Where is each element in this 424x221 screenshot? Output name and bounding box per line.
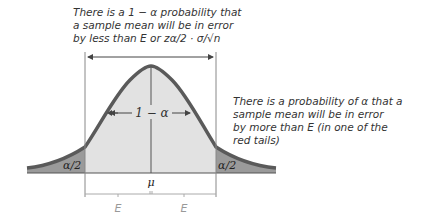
error-label-left: E	[115, 202, 122, 215]
normal-distribution-diagram: 1 − α α/2 α/2 μ E E	[0, 0, 424, 221]
error-label-right: E	[181, 202, 188, 215]
right-tail-label: α/2	[218, 159, 236, 172]
left-tail-label: α/2	[63, 159, 81, 172]
center-label: 1 − α	[135, 106, 168, 120]
mean-label: μ	[147, 176, 154, 189]
